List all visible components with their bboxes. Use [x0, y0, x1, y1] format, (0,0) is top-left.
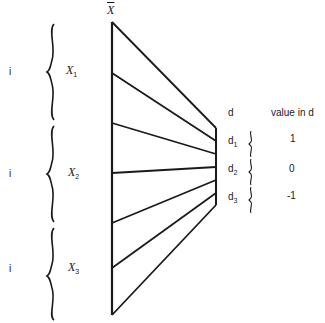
group-label-x2: X2	[68, 166, 79, 183]
index-label-2: i	[9, 168, 11, 180]
left-braces	[47, 24, 54, 320]
mapping-diagram	[0, 0, 325, 323]
brace-d1	[249, 131, 252, 157]
d2-value: 0	[289, 163, 295, 175]
d1-value: 1	[290, 133, 296, 145]
brace-x1	[47, 24, 54, 120]
d3-value: -1	[287, 190, 296, 202]
group-label-x1: X1	[66, 64, 77, 81]
index-label-3: i	[9, 263, 11, 275]
brace-d3	[249, 187, 252, 213]
brace-d2	[249, 159, 252, 185]
connector-lines	[112, 22, 216, 315]
index-label-1: i	[9, 66, 11, 78]
d-header: d	[228, 107, 234, 119]
brace-x2	[47, 126, 54, 222]
value-in-d-header: value in d	[271, 107, 314, 119]
group-label-x3: X3	[68, 261, 79, 278]
d2-label: d2	[228, 163, 237, 179]
d1-label: d1	[228, 135, 237, 151]
d3-label: d3	[228, 191, 237, 207]
brace-x3	[47, 228, 54, 320]
right-braces	[249, 131, 252, 213]
x-bar-label: X	[107, 4, 114, 16]
